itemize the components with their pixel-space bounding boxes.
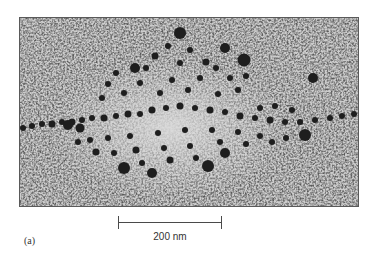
scale-bar-label: 200 nm bbox=[118, 231, 222, 242]
micrograph-image bbox=[20, 18, 359, 207]
panel-label: (a) bbox=[24, 235, 35, 246]
scale-bar-line bbox=[118, 222, 222, 223]
scale-bar-right-tick bbox=[221, 216, 222, 229]
scale-bar bbox=[118, 215, 222, 229]
electron-micrograph bbox=[19, 17, 359, 207]
